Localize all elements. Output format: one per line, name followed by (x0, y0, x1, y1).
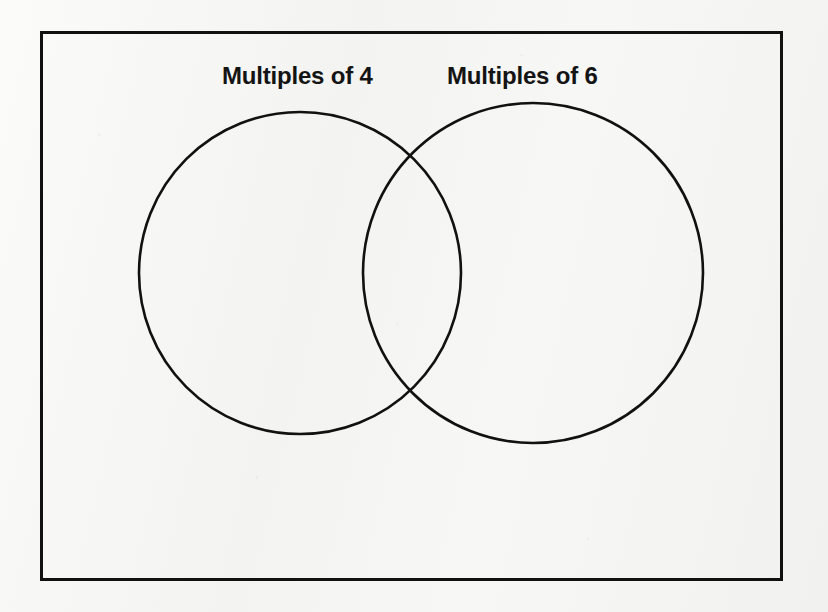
answer-regions (60, 193, 760, 565)
right-set-label: Multiples of 6 (447, 64, 598, 88)
region-intersection (392, 243, 452, 303)
region-left-only (160, 193, 320, 353)
region-outside-sets (60, 470, 760, 565)
venn-diagram (0, 0, 828, 612)
region-right-only (520, 193, 680, 353)
worksheet-page: Multiples of 4 Multiples of 6 (0, 0, 828, 612)
left-set-label: Multiples of 4 (222, 64, 373, 88)
